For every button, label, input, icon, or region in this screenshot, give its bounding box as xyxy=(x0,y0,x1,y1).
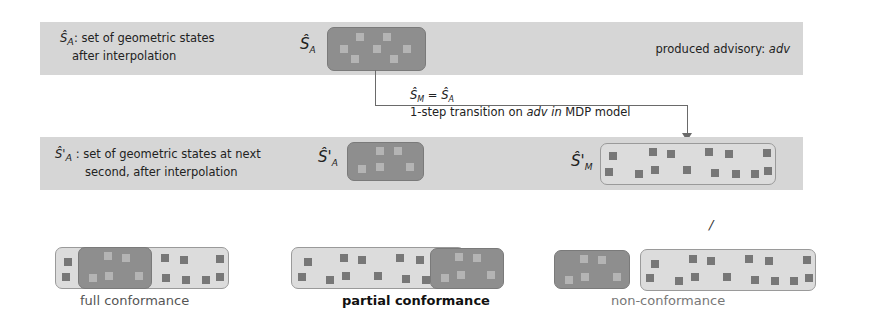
state-square xyxy=(649,148,657,156)
advisory-prefix: produced advisory: xyxy=(655,42,768,56)
outcome-full-actual-set xyxy=(78,247,152,289)
state-square xyxy=(298,273,306,281)
symbol-text: Ŝ xyxy=(300,35,310,53)
eq-rhs-sub: A xyxy=(448,95,453,104)
middle-band-label: Ŝ'A : set of geometric states at next se… xyxy=(55,147,261,179)
symbol-sub: M xyxy=(585,162,593,172)
state-square xyxy=(605,168,613,176)
state-square xyxy=(304,258,312,266)
state-square xyxy=(732,170,740,178)
symbol-sub: A xyxy=(332,158,338,168)
state-square xyxy=(62,273,70,281)
state-square xyxy=(805,274,813,282)
top-band-label: ŜA: set of geometric states after interp… xyxy=(60,31,215,63)
label-text: : set of geometric states at next xyxy=(72,147,261,161)
state-square xyxy=(104,252,112,260)
state-square xyxy=(376,147,384,155)
set-symbol-sa-prime: Ŝ'A xyxy=(318,148,338,168)
symbol-text: Ŝ' xyxy=(571,152,585,170)
state-square xyxy=(803,256,811,264)
transition-var: adv in xyxy=(526,105,561,119)
transition-prefix: 1-step transition on xyxy=(410,105,526,119)
state-square xyxy=(351,55,359,63)
advisory-label: produced advisory: adv xyxy=(655,42,790,56)
state-square xyxy=(64,258,72,266)
state-square xyxy=(707,257,715,265)
state-square xyxy=(646,274,654,282)
state-square xyxy=(396,254,404,262)
transition-suffix: MDP model xyxy=(562,105,631,119)
state-square xyxy=(122,254,130,262)
state-square xyxy=(402,275,410,283)
state-square xyxy=(374,272,382,280)
state-square xyxy=(751,276,759,284)
state-square xyxy=(358,165,366,173)
state-square xyxy=(202,276,210,284)
state-square xyxy=(340,254,348,262)
state-square xyxy=(711,169,719,177)
state-square xyxy=(598,256,606,264)
outcome-non-actual-set xyxy=(554,250,630,289)
outcome-non-label: non-conformance xyxy=(611,293,725,308)
connector-vertical-2 xyxy=(687,105,688,135)
state-square xyxy=(725,150,733,158)
label-text: : set of geometric states xyxy=(74,31,215,45)
set-sa-prime-box xyxy=(347,142,424,181)
state-square xyxy=(683,166,691,174)
set-symbol-sm-prime: Ŝ'M xyxy=(571,152,592,172)
state-square xyxy=(455,253,463,261)
outcome-partial-actual-set xyxy=(430,248,504,289)
state-square xyxy=(441,274,449,282)
transition-equation: ŜM = ŜA xyxy=(410,88,454,104)
outcome-full-label: full conformance xyxy=(80,293,189,308)
state-square xyxy=(751,170,759,178)
state-square xyxy=(763,149,771,157)
stray-mark: / xyxy=(709,217,713,232)
state-square xyxy=(216,273,224,281)
symbol-sub: A xyxy=(310,45,316,55)
state-square xyxy=(342,272,350,280)
state-square xyxy=(373,45,381,53)
set-sm-prime-box xyxy=(600,143,776,185)
state-square xyxy=(406,163,414,171)
transition-label: 1-step transition on adv in MDP model xyxy=(410,105,631,119)
state-square xyxy=(383,33,391,41)
label-text-line2: after interpolation xyxy=(60,49,176,63)
state-square xyxy=(705,148,713,156)
state-square xyxy=(581,273,589,281)
state-square xyxy=(565,276,573,284)
state-square xyxy=(613,273,621,281)
state-square xyxy=(651,260,659,268)
state-square xyxy=(105,272,113,280)
state-square xyxy=(358,256,366,264)
state-square xyxy=(376,163,384,171)
state-square xyxy=(326,276,334,284)
state-square xyxy=(162,274,170,282)
state-square xyxy=(403,45,411,53)
label-symbol: Ŝ' xyxy=(55,147,65,161)
state-square xyxy=(790,277,798,285)
state-square xyxy=(580,255,588,263)
state-square xyxy=(764,167,772,175)
outcome-non-model-set xyxy=(640,249,816,291)
state-square xyxy=(422,276,430,284)
state-square xyxy=(765,257,773,265)
state-square xyxy=(689,255,697,263)
state-square xyxy=(135,272,143,280)
symbol-text: Ŝ' xyxy=(318,148,332,166)
set-symbol-sa: ŜA xyxy=(300,35,316,55)
state-square xyxy=(473,254,481,262)
advisory-var: adv xyxy=(769,42,790,56)
state-square xyxy=(487,271,495,279)
label-text-line2: second, after interpolation xyxy=(55,165,238,179)
state-square xyxy=(182,276,190,284)
state-square xyxy=(745,255,753,263)
state-square xyxy=(340,45,348,53)
connector-vertical-1 xyxy=(375,70,376,106)
state-square xyxy=(457,271,465,279)
outcome-partial-label: partial conformance xyxy=(342,293,490,308)
state-square xyxy=(691,273,699,281)
state-square xyxy=(667,150,675,158)
state-square xyxy=(771,277,779,285)
state-square xyxy=(161,254,169,262)
